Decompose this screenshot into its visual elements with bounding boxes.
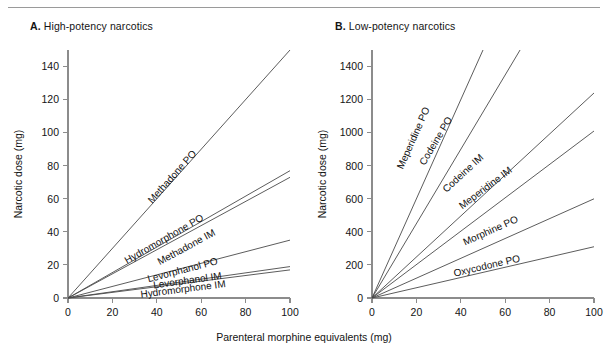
x-tick-label: 80 [240, 306, 252, 318]
y-axis-title: Narcotic dose (mg) [316, 130, 328, 219]
y-tick-label: 1000 [340, 126, 364, 138]
y-tick-label: 60 [47, 193, 59, 205]
y-tick-label: 200 [345, 259, 363, 271]
y-tick-label: 800 [345, 160, 363, 172]
y-tick-label: 20 [47, 259, 59, 271]
x-tick-label: 0 [65, 306, 71, 318]
y-tick-label: 1200 [340, 93, 364, 105]
chart-panel-a: 020406080100120140020406080100Narcotic d… [0, 0, 304, 361]
x-tick-label: 40 [455, 306, 467, 318]
y-tick-label: 400 [345, 226, 363, 238]
x-tick-label: 60 [195, 306, 207, 318]
series-label: Morphine PO [461, 213, 519, 247]
x-axis-caption: Parenteral morphine equivalents (mg) [0, 331, 608, 343]
figure-container: A. High-potency narcotics B. Low-potency… [0, 0, 608, 361]
series-line [372, 247, 594, 298]
chart-panel-b: 0200400600800100012001400020406080100Nar… [304, 0, 608, 361]
series-label: Methadone PO [145, 148, 198, 206]
y-axis-title: Narcotic dose (mg) [12, 130, 24, 219]
chart-a-svg: 020406080100120140020406080100Narcotic d… [0, 0, 304, 361]
series-label: Oxycodone PO [452, 253, 521, 279]
chart-b-svg: 0200400600800100012001400020406080100Nar… [304, 0, 608, 361]
y-tick-label: 1400 [340, 60, 364, 72]
series-line [372, 199, 594, 298]
x-tick-label: 40 [151, 306, 163, 318]
x-tick-label: 100 [585, 306, 603, 318]
x-tick-label: 0 [369, 306, 375, 318]
y-tick-label: 80 [47, 160, 59, 172]
y-tick-label: 600 [345, 193, 363, 205]
y-tick-label: 140 [41, 60, 59, 72]
x-tick-label: 60 [499, 306, 511, 318]
x-tick-label: 20 [411, 306, 423, 318]
x-tick-label: 100 [281, 306, 299, 318]
x-tick-label: 20 [107, 306, 119, 318]
y-tick-label: 40 [47, 226, 59, 238]
y-tick-label: 0 [357, 292, 363, 304]
y-tick-label: 100 [41, 126, 59, 138]
y-tick-label: 0 [53, 292, 59, 304]
x-tick-label: 80 [544, 306, 556, 318]
y-tick-label: 120 [41, 93, 59, 105]
